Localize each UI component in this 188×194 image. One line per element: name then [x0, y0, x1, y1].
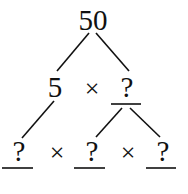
branch-root-left	[57, 33, 89, 71]
times-sign-level1: ×	[80, 76, 104, 102]
unknown-factor-a[interactable]: ?	[8, 137, 30, 166]
branch-q-right	[130, 108, 160, 137]
branch-root-right	[96, 33, 129, 71]
unknown-factor-b[interactable]: ?	[81, 137, 103, 166]
root-number: 50	[72, 6, 114, 35]
unknown-factor-level1[interactable]: ?	[116, 73, 138, 102]
times-sign-2: ×	[116, 140, 140, 166]
factor-5: 5	[44, 73, 66, 102]
branch-q-middle	[96, 108, 122, 137]
branch-5-left	[22, 101, 54, 138]
times-sign-1: ×	[45, 140, 69, 166]
unknown-factor-c[interactable]: ?	[152, 137, 174, 166]
